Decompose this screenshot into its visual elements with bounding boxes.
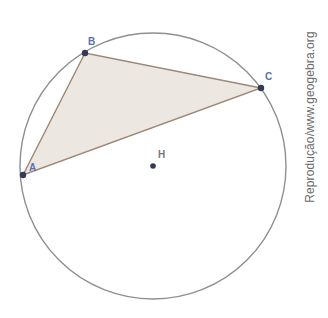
geometry-diagram: ABCH [0,0,328,318]
label-h: H [158,149,165,160]
label-b: B [88,36,95,47]
credit-text: Reprodução/www.geogebra.org [303,31,317,202]
point-c [258,85,264,91]
label-a: A [29,162,36,173]
point-b [82,50,88,56]
point-h [150,163,156,169]
label-c: C [265,71,272,82]
point-a [20,172,26,178]
